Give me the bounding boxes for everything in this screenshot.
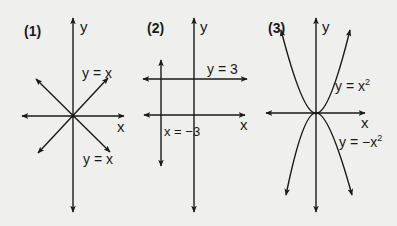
panel-1-line-label-upper: y = x — [82, 66, 112, 80]
panel-3-x-axis-label: x — [361, 115, 369, 130]
panel-3-curve-label-down: y = −x2 — [339, 135, 382, 149]
panel-1-origin-dot — [71, 114, 74, 117]
panel-1-line-label-lower: y = x — [83, 152, 113, 166]
panel-3-curve-label-up: y = x2 — [335, 79, 370, 93]
panel-2-y-axis-label: y — [200, 19, 208, 34]
panel-3-y-axis-label: y — [322, 19, 330, 34]
panel-2-x-axis-label: x — [240, 117, 248, 132]
panel-1-number: (1) — [24, 24, 41, 38]
graphs-canvas — [0, 0, 397, 226]
panel-3-curve-label-up-base: y = x — [335, 78, 365, 94]
panel-3-parabola-down — [286, 113, 352, 195]
panel-3-graph — [266, 18, 365, 212]
panel-1-x-axis-label: x — [117, 119, 125, 134]
panel-3-origin-dot — [314, 111, 317, 114]
panel-2-number: (2) — [147, 21, 164, 35]
panel-1-y-axis-label: y — [80, 19, 88, 34]
panel-3-curve-label-down-exponent: 2 — [377, 133, 382, 143]
panel-3-curve-label-up-exponent: 2 — [365, 77, 370, 87]
panel-2-graph — [143, 18, 247, 212]
panel-3-curve-label-down-base: y = −x — [339, 134, 377, 150]
panel-2-line-label-xneg3: x = −3 — [164, 125, 200, 138]
panel-2-line-label-y3: y = 3 — [207, 62, 238, 76]
panel-3-number: (3) — [268, 21, 285, 35]
